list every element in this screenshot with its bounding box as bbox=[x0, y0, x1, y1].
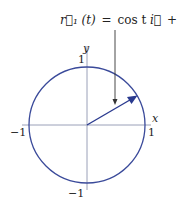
equation-equals: = bbox=[102, 13, 112, 27]
equation-label: r⃗₁ (t) = cos t i⃗ + sin t j⃗ bbox=[60, 13, 177, 27]
x-axis-label: x bbox=[152, 112, 159, 125]
vector-arrowhead-icon bbox=[127, 96, 138, 105]
equation-i-vector: i⃗ bbox=[150, 13, 161, 27]
unit-circle-diagram: r⃗₁ (t) = cos t i⃗ + sin t j⃗ y x 1 1 −1… bbox=[0, 0, 177, 208]
x-negative-tick: −1 bbox=[10, 126, 26, 139]
x-positive-tick: 1 bbox=[148, 126, 155, 139]
y-positive-tick: 1 bbox=[78, 53, 85, 66]
equation-cos: cos t bbox=[117, 13, 146, 27]
position-vector-arrow bbox=[87, 97, 135, 125]
pointer-arrowhead-icon bbox=[113, 99, 118, 105]
equation-plus: + bbox=[167, 13, 177, 27]
equation-lhs: r⃗₁ (t) bbox=[60, 13, 96, 27]
y-negative-tick: −1 bbox=[68, 187, 84, 200]
